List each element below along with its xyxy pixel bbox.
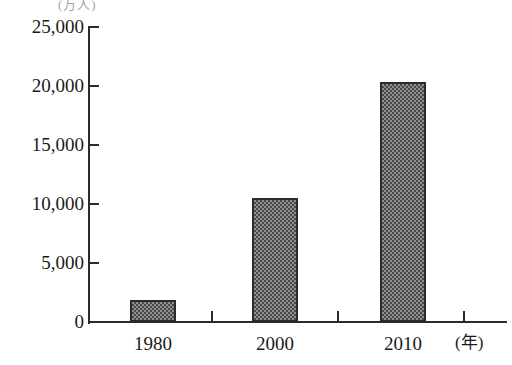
y-axis-tick-label: 20,000 bbox=[0, 76, 84, 95]
y-axis-unit-label: (万人) bbox=[58, 0, 97, 13]
y-axis-tick-label: 25,000 bbox=[0, 17, 84, 36]
y-axis-line bbox=[88, 26, 90, 324]
bar-chart-figure: (万人) 05,00010,00015,00020,00025,000 1980… bbox=[0, 0, 512, 365]
x-axis-tick-label: 2000 bbox=[235, 334, 315, 353]
y-axis-tick bbox=[90, 262, 99, 264]
bar bbox=[380, 82, 426, 322]
y-axis-tick-label: 15,000 bbox=[0, 135, 84, 154]
y-axis-tick bbox=[90, 203, 99, 205]
x-axis-tick-label: 2010 bbox=[363, 334, 443, 353]
x-axis-tick-label: 1980 bbox=[113, 334, 193, 353]
y-axis-tick-label: 10,000 bbox=[0, 194, 84, 213]
y-axis-tick-label: 0 bbox=[0, 312, 84, 331]
x-axis-tick bbox=[337, 311, 339, 322]
x-axis-tick bbox=[463, 311, 465, 322]
x-axis-tick bbox=[211, 311, 213, 322]
x-axis-unit-label: (年) bbox=[455, 334, 483, 351]
y-axis-tick bbox=[90, 26, 99, 28]
y-axis-tick-label: 5,000 bbox=[0, 253, 84, 272]
bar bbox=[130, 300, 176, 322]
bar bbox=[252, 198, 298, 322]
y-axis-tick bbox=[90, 144, 99, 146]
y-axis-tick bbox=[90, 85, 99, 87]
